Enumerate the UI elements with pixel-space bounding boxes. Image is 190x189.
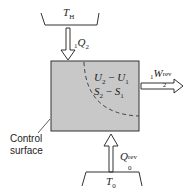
control-surface-label: Controlsurface — [10, 133, 43, 157]
heat-ambient-label: Q0rev — [120, 151, 140, 162]
control-surface-leader — [38, 119, 50, 133]
hot-reservoir-label: TH — [63, 7, 74, 21]
entropy-change-label: S2 − S1 — [94, 86, 124, 100]
heat-in-arrow — [61, 28, 75, 60]
heat-in-label: 1Q2 — [74, 37, 89, 51]
heat-ambient-arrow — [104, 134, 118, 172]
ambient-reservoir-label: T0 — [106, 176, 116, 189]
work-out-label: 1W2rev — [150, 68, 175, 81]
